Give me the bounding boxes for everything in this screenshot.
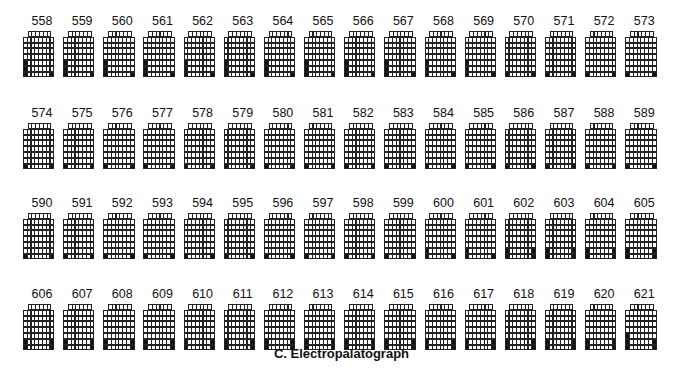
frame-number: 563 (223, 14, 263, 28)
frame-number: 618 (504, 287, 544, 301)
frame-number: 590 (22, 196, 62, 210)
contact-cell-on (572, 254, 577, 260)
contact-cell-on (170, 164, 175, 170)
contact-cell-on (491, 254, 496, 260)
frame-number: 603 (544, 196, 584, 210)
contact-cell-on (331, 72, 336, 78)
frame-number: 592 (102, 196, 142, 210)
palate-grid (23, 31, 53, 77)
palate-grid (344, 123, 374, 169)
frame-number: 609 (142, 287, 182, 301)
frame-number: 569 (464, 14, 504, 28)
palate-grid (505, 31, 535, 77)
contact-cell-on (531, 164, 536, 170)
contact-cell-on (652, 254, 657, 260)
contact-cell-on (290, 254, 295, 260)
contact-cell-on (572, 72, 577, 78)
frame-number: 605 (624, 196, 664, 210)
palate-grid (304, 123, 334, 169)
palate-grid (264, 123, 294, 169)
contact-cell-on (250, 72, 255, 78)
palate-grid (384, 123, 414, 169)
frame-number: 615 (383, 287, 423, 301)
frame-number: 566 (343, 14, 383, 28)
palate-grid (23, 213, 53, 259)
palate-grid (384, 31, 414, 77)
palate-grid (304, 304, 334, 350)
frame-number: 596 (263, 196, 303, 210)
frame-number: 597 (303, 196, 343, 210)
frame-number: 581 (303, 106, 343, 120)
frame-number: 572 (584, 14, 624, 28)
contact-cell-on (250, 164, 255, 170)
palate-grid (264, 213, 294, 259)
contact-cell-on (290, 72, 295, 78)
palate-grid (63, 123, 93, 169)
palate-grid (425, 123, 455, 169)
contact-cell-on (371, 254, 376, 260)
frame-number: 562 (183, 14, 223, 28)
frame-number: 567 (383, 14, 423, 28)
contact-cell-on (170, 254, 175, 260)
frame-number: 599 (383, 196, 423, 210)
palate-grid (545, 31, 575, 77)
palate-grid (505, 123, 535, 169)
frame-number: 576 (102, 106, 142, 120)
palate-grid (425, 31, 455, 77)
palate-grid (505, 304, 535, 350)
contact-cell-on (411, 164, 416, 170)
frame-number: 586 (504, 106, 544, 120)
palate-grid (184, 123, 214, 169)
contact-cell-on (210, 72, 215, 78)
frame-number: 570 (504, 14, 544, 28)
frame-number: 595 (223, 196, 263, 210)
contact-cell-on (371, 72, 376, 78)
frame-number: 601 (464, 196, 504, 210)
palate-grid (224, 123, 254, 169)
frame-number: 593 (142, 196, 182, 210)
palate-grid (224, 31, 254, 77)
frame-number: 612 (263, 287, 303, 301)
palate-grid (63, 31, 93, 77)
contact-cell-on (331, 164, 336, 170)
frame-number: 617 (464, 287, 504, 301)
contact-cell-on (250, 254, 255, 260)
contact-cell-on (451, 72, 456, 78)
palate-grid (585, 213, 615, 259)
frame-number: 580 (263, 106, 303, 120)
frame-number: 619 (544, 287, 584, 301)
palate-grid (465, 123, 495, 169)
palate-grid (384, 213, 414, 259)
palate-grid (103, 123, 133, 169)
palate-grid (103, 213, 133, 259)
frame-number: 561 (142, 14, 182, 28)
palate-grid (224, 304, 254, 350)
palate-grid (143, 123, 173, 169)
frame-number: 583 (383, 106, 423, 120)
contact-cell-on (652, 72, 657, 78)
frame-number: 613 (303, 287, 343, 301)
frame-number: 565 (303, 14, 343, 28)
frame-number: 598 (343, 196, 383, 210)
contact-cell-on (411, 72, 416, 78)
palate-grid (63, 213, 93, 259)
frame-number: 587 (544, 106, 584, 120)
contact-cell-on (130, 72, 135, 78)
frame-number: 606 (22, 287, 62, 301)
contact-cell-on (290, 164, 295, 170)
contact-cell-on (572, 164, 577, 170)
frame-number: 560 (102, 14, 142, 28)
frame-number: 585 (464, 106, 504, 120)
frame-number: 608 (102, 287, 142, 301)
palate-grid (545, 123, 575, 169)
contact-cell-on (491, 72, 496, 78)
contact-cell-on (50, 254, 55, 260)
frame-number: 594 (183, 196, 223, 210)
contact-cell-on (531, 254, 536, 260)
palate-grid (425, 304, 455, 350)
contact-cell-on (451, 164, 456, 170)
palate-grid (23, 304, 53, 350)
frame-number: 559 (62, 14, 102, 28)
contact-cell-on (411, 254, 416, 260)
frame-number: 577 (142, 106, 182, 120)
